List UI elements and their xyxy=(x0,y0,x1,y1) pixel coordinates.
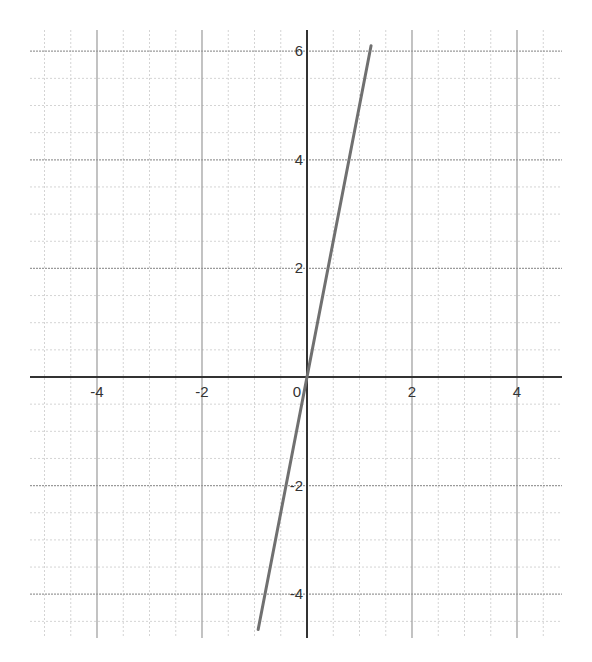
x-tick-label: -4 xyxy=(90,383,103,400)
x-tick-label: 2 xyxy=(408,383,416,400)
major-grid xyxy=(30,30,562,638)
minor-grid xyxy=(30,30,562,638)
x-tick-label: 4 xyxy=(513,383,521,400)
line-chart: -4-2024 -4-2246 xyxy=(0,0,592,662)
y-tick-label: -4 xyxy=(290,585,303,602)
series-line xyxy=(258,46,371,630)
y-tick-label: 4 xyxy=(295,151,303,168)
data-series xyxy=(258,46,371,630)
x-tick-label: 0 xyxy=(293,383,301,400)
axes xyxy=(30,30,562,638)
x-tick-label: -2 xyxy=(195,383,208,400)
y-tick-label: 6 xyxy=(295,42,303,59)
y-tick-label: -2 xyxy=(290,477,303,494)
y-tick-label: 2 xyxy=(295,259,303,276)
